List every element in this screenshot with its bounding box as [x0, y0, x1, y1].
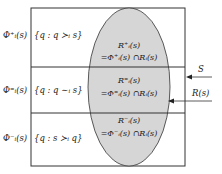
arrow-s-head: [186, 75, 192, 80]
phi-minus-label: Φ⁻ᵢ(s): [3, 134, 27, 143]
r-eq-eq: =Φ⁼ᵢ(s) ∩Rᵢ(s): [101, 90, 158, 98]
phi-plus-label: Φ⁺ᵢ(s): [3, 31, 27, 40]
r-arrow-label: R(s): [192, 89, 209, 98]
set-eq-label: {q : q ∼ᵢ s}: [34, 86, 83, 95]
r-eq-label: R⁼ᵢ(s): [118, 77, 140, 85]
set-minus-label: {q : s ≻ᵢ q}: [34, 134, 82, 143]
r-plus-label: R⁺ᵢ(s): [118, 42, 140, 50]
r-minus-label: R⁻ᵢ(s): [118, 117, 140, 125]
r-minus-eq: =Φ⁻ᵢ(s) ∩Rᵢ(s): [101, 130, 158, 138]
region-ellipse: [88, 8, 170, 166]
set-plus-label: {q : q ≻ᵢ s}: [34, 31, 82, 40]
phi-eq-label: Φ⁼ᵢ(s): [3, 86, 27, 95]
s-arrow-label: S: [198, 65, 204, 74]
r-plus-eq: =Φ⁺ᵢ(s) ∩Rᵢ(s): [101, 54, 158, 62]
